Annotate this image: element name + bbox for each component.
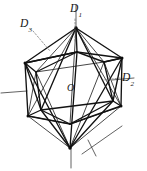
label-d2-axis: D2 (122, 72, 134, 86)
axis-three-fold-lower (88, 140, 96, 156)
label-center-point: O (67, 83, 74, 93)
edge-nadir-f4 (70, 58, 122, 148)
label-d3-base: D (20, 17, 28, 29)
vertex-fr (121, 57, 124, 60)
label-d2-base: D (122, 71, 130, 83)
edge-nadir-f1 (25, 63, 70, 148)
label-d3-axis: D3 (20, 18, 32, 32)
vertex-bl (27, 115, 30, 118)
label-d2-subscript: 2 (131, 80, 135, 88)
edge-apex-f1 (76, 28, 77, 52)
diag-nadir-b4 (70, 106, 121, 148)
label-d1-base: D (70, 2, 78, 14)
label-d1-axis: D1 (70, 3, 82, 17)
vertex-nadir (68, 146, 71, 149)
belt-4 (70, 101, 113, 124)
vertex-fl (24, 62, 27, 65)
icosahedron-figure: D1 D3 D2 O (0, 0, 147, 171)
edge-apex-f3 (76, 28, 113, 101)
label-d1-subscript: 1 (79, 11, 83, 19)
vertex-br (120, 105, 123, 108)
hull-bottom-r (70, 106, 121, 124)
axis-two-fold-left (1, 91, 27, 93)
hull-bottom (28, 116, 70, 124)
leader-d3 (33, 31, 50, 51)
edge-nadir-f3 (70, 101, 113, 148)
label-d3-subscript: 3 (29, 26, 33, 34)
